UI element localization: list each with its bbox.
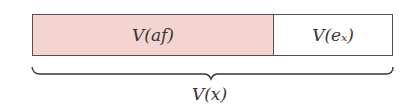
- total-label: V(x): [0, 84, 419, 104]
